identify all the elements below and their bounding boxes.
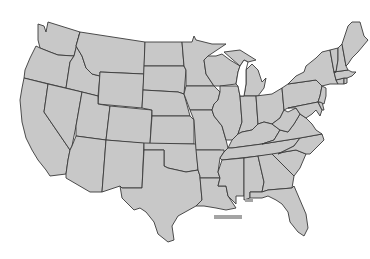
gray-marker-bar xyxy=(214,215,242,219)
state-nm xyxy=(102,140,144,192)
state-nd xyxy=(144,42,184,66)
state-ri xyxy=(344,78,347,84)
state-me xyxy=(342,22,368,66)
us-map xyxy=(0,0,370,259)
state-fl xyxy=(250,186,308,236)
state-co xyxy=(106,106,152,144)
state-wy xyxy=(98,72,144,108)
state-sd xyxy=(143,66,186,94)
state-ny xyxy=(288,50,338,86)
state-ks xyxy=(150,116,194,144)
small-gray-mark xyxy=(245,199,253,202)
